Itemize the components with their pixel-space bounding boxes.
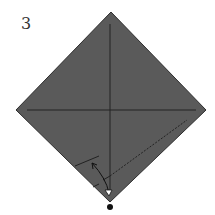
paper-square: [16, 12, 206, 202]
origami-diagram: [0, 0, 215, 215]
target-dot: [107, 204, 113, 210]
